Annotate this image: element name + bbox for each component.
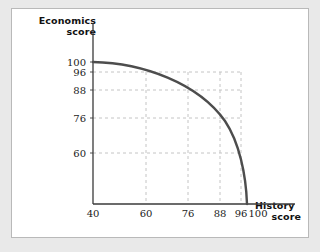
chart-svg [12,9,310,239]
axes-group [93,23,295,204]
gridlines-group [93,72,241,204]
frontier-curve [93,62,247,204]
figure-panel: Economics score History score 100 96 88 … [11,8,309,238]
chart-plot-area: Economics score History score 100 96 88 … [12,9,310,239]
